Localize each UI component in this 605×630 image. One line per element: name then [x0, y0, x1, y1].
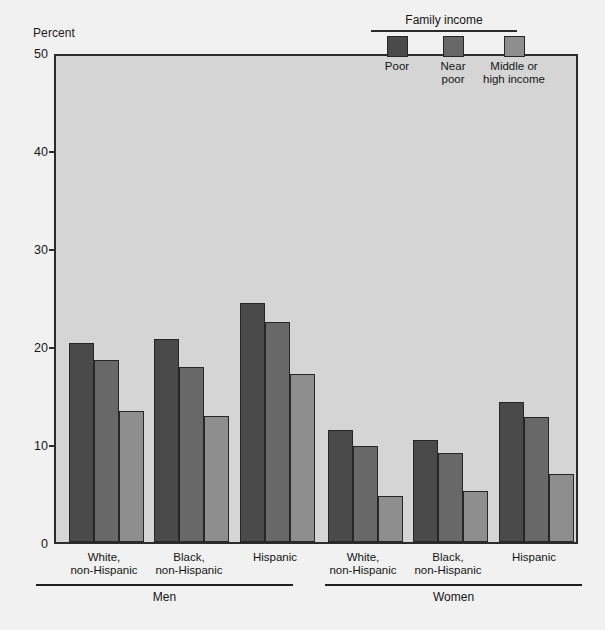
bar — [69, 343, 94, 542]
bar — [353, 446, 378, 542]
y-axis-title: Percent — [33, 26, 75, 40]
bar — [438, 453, 463, 542]
legend-label: Near poor — [431, 60, 475, 85]
group-label: Women — [325, 590, 582, 604]
bar — [265, 322, 290, 543]
legend-entry-3[interactable]: Middle or high income — [479, 36, 549, 85]
bar — [179, 367, 204, 542]
y-tick-label-50: 50 — [14, 47, 48, 61]
legend-divider — [371, 30, 517, 32]
group-label: Men — [36, 590, 293, 604]
bar — [499, 402, 524, 542]
legend-swatch-icon — [443, 36, 464, 57]
y-tick-label-40: 40 — [14, 145, 48, 159]
bar — [119, 411, 144, 542]
y-tick-label-20: 20 — [14, 341, 48, 355]
bar — [204, 416, 229, 542]
bars-container — [56, 56, 576, 542]
legend-entry-1[interactable]: Poor — [377, 36, 417, 73]
legend-swatch-icon — [387, 36, 408, 57]
legend-title: Family income — [369, 13, 519, 27]
bar — [154, 339, 179, 542]
group-rule — [325, 584, 582, 586]
chart-page: Percent 01020304050 Family income PoorNe… — [0, 0, 605, 630]
y-tick-label-10: 10 — [14, 439, 48, 453]
legend-swatch-icon — [504, 36, 525, 57]
x-category-label: Hispanic — [479, 551, 589, 564]
bar — [328, 430, 353, 542]
group-rule — [36, 584, 293, 586]
y-tick-label-0: 0 — [14, 537, 48, 551]
bar — [413, 440, 438, 542]
bar — [524, 417, 549, 542]
y-tick-label-30: 30 — [14, 243, 48, 257]
legend: Family income PoorNear poorMiddle or hig… — [369, 13, 519, 93]
bar — [463, 491, 488, 542]
plot-area — [54, 54, 578, 544]
legend-label: Poor — [377, 60, 417, 73]
legend-label: Middle or high income — [479, 60, 549, 85]
bar — [549, 474, 574, 542]
bar — [290, 374, 315, 542]
bar — [378, 496, 403, 542]
bar — [94, 360, 119, 542]
bar — [240, 303, 265, 542]
legend-entry-2[interactable]: Near poor — [431, 36, 475, 85]
